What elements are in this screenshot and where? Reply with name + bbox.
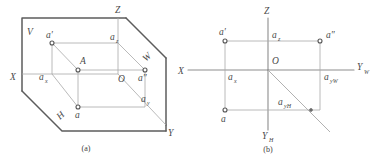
label-b-a-prime: a′: [219, 27, 227, 37]
label-axis-Z-b: Z: [264, 6, 270, 16]
diagram-b-points: [223, 39, 322, 112]
svg-text:a: a: [228, 72, 233, 82]
figure-root: V H W Z X Y O A a′ a″ a a z a x a y (a): [0, 0, 376, 157]
svg-text:yW: yW: [329, 78, 339, 84]
svg-text:a: a: [278, 97, 283, 107]
point-b-a-prime-marker: [223, 39, 227, 43]
label-b-a-double-prime: a″: [326, 30, 336, 40]
bisector-corner-marker: [310, 109, 313, 112]
svg-text:x: x: [233, 78, 237, 84]
label-b-az: a z: [272, 30, 281, 42]
label-b-ax: a x: [228, 72, 237, 84]
point-b-a-marker: [223, 108, 227, 112]
diagram-b: X Z Y W Y H O a′ a″ a a z a x a yW a yH: [0, 0, 376, 157]
svg-text:Y: Y: [262, 131, 269, 141]
label-axis-YW-b: Y W: [357, 62, 370, 75]
svg-text:H: H: [268, 137, 274, 143]
svg-text:yH: yH: [283, 103, 292, 109]
label-b-ayw: a yW: [324, 72, 339, 84]
svg-text:W: W: [364, 69, 370, 75]
point-b-a-double-prime-marker: [318, 39, 322, 43]
svg-text:Y: Y: [357, 62, 364, 72]
svg-text:a: a: [324, 72, 329, 82]
label-axis-YH-b: Y H: [262, 131, 274, 143]
diagram-b-projection-lines: [225, 41, 320, 110]
label-axis-X-b: X: [177, 66, 185, 76]
label-origin-O-b: O: [272, 56, 279, 66]
label-b-ayh: a yH: [278, 97, 292, 109]
svg-text:a: a: [272, 30, 277, 40]
label-b-a-top: a: [221, 114, 226, 124]
caption-b: (b): [263, 145, 273, 154]
